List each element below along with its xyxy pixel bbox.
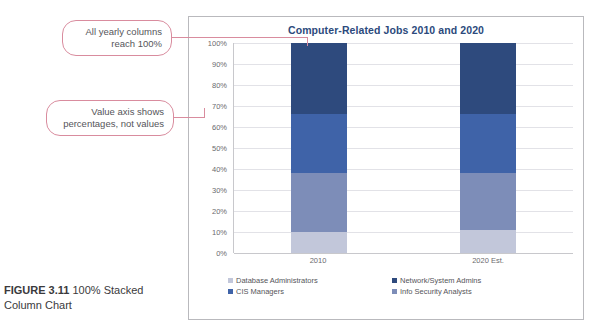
callout-leader-line-1 [172,37,308,38]
y-axis-tick-label: 100% [208,39,227,48]
y-axis-tick-label: 70% [212,102,227,111]
legend-label: Database Administrators [236,276,318,285]
legend-item[interactable]: Info Security Analysts [392,287,544,296]
bar-segment[interactable] [291,114,347,173]
bar-segment[interactable] [291,173,347,232]
gridline [234,232,573,233]
legend-label: CIS Managers [236,287,284,296]
legend-swatch-icon [228,278,233,283]
x-axis-tick-label: 2020 Est. [472,256,504,265]
gridline [234,43,573,44]
gridline [234,64,573,65]
callout-leader-line-2 [174,117,205,118]
legend-label: Network/System Admins [400,276,481,285]
figure-number: FIGURE 3.11 [4,284,69,296]
legend-swatch-icon [228,289,233,294]
callout-leader-line-2-vertical [204,108,205,118]
chart-container: Computer-Related Jobs 2010 and 2020 0%10… [188,16,584,320]
bar-segment[interactable] [291,43,347,114]
gridline [234,253,573,254]
y-axis-tick-label: 60% [212,123,227,132]
x-axis-labels: 20102020 Est. [233,256,573,270]
x-axis-tick-label: 2010 [310,256,327,265]
bar-segment[interactable] [460,230,516,253]
gridline [234,169,573,170]
gridline [234,106,573,107]
callout-annotation-columns-reach-100: All yearly columns reach 100% [62,20,172,56]
stacked-bar[interactable] [460,43,516,253]
legend-swatch-icon [392,289,397,294]
y-axis-tick-label: 40% [212,165,227,174]
legend-item[interactable]: Database Administrators [228,276,380,285]
callout-annotation-value-axis-percentages: Value axis shows percentages, not values [46,100,174,136]
callout-leader-line-1-vertical [307,37,308,46]
stacked-bar[interactable] [291,43,347,253]
gridline [234,85,573,86]
legend-label: Info Security Analysts [400,287,472,296]
y-axis-tick-label: 50% [212,144,227,153]
y-axis-tick-label: 20% [212,207,227,216]
bar-segment[interactable] [460,43,516,114]
y-axis-tick-label: 90% [212,60,227,69]
gridline [234,148,573,149]
y-axis-tick-label: 30% [212,186,227,195]
y-axis: 0%10%20%30%40%50%60%70%80%90%100% [197,43,231,253]
plot-area-wrapper: 0%10%20%30%40%50%60%70%80%90%100% 201020… [197,43,577,268]
legend-item[interactable]: Network/System Admins [392,276,544,285]
gridline [234,127,573,128]
y-axis-tick-label: 0% [216,249,227,258]
chart-title: Computer-Related Jobs 2010 and 2020 [189,24,583,36]
bar-segment[interactable] [460,114,516,173]
bar-segment[interactable] [291,232,347,253]
y-axis-tick-label: 10% [212,228,227,237]
legend-swatch-icon [392,278,397,283]
chart-legend: Database AdministratorsNetwork/System Ad… [197,275,575,297]
gridline [234,190,573,191]
figure-caption: FIGURE 3.11 100% Stacked Column Chart [4,283,179,313]
gridline [234,211,573,212]
y-axis-tick-label: 80% [212,81,227,90]
bar-segment[interactable] [460,173,516,230]
plot-area [233,43,573,253]
legend-item[interactable]: CIS Managers [228,287,380,296]
